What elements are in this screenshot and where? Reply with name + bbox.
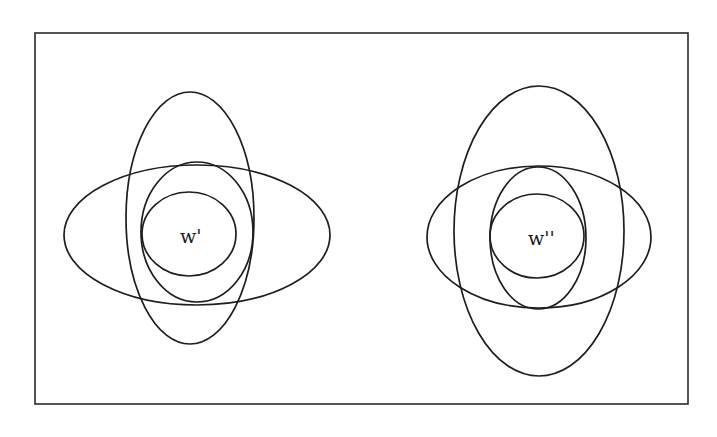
label-w-prime: w' — [180, 225, 202, 247]
group-w-prime: w' — [64, 92, 330, 344]
group-w-double-prime: w'' — [427, 86, 651, 376]
label-w-double-prime: w'' — [528, 227, 555, 249]
diagram-frame — [35, 33, 688, 404]
nested-ellipse-diagram: w' w'' — [0, 0, 717, 437]
